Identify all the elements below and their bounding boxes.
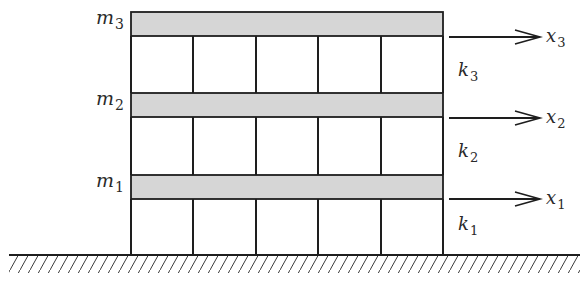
displacement-label-floor-3: x3: [546, 25, 565, 50]
slab-floor-3: [131, 12, 443, 36]
building-frame: [131, 12, 443, 255]
stiffness-label-floor-2: k2: [458, 140, 478, 165]
stiffness-label-floor-1: k1: [458, 213, 478, 238]
displacement-label-floor-2: x2: [546, 106, 565, 131]
stiffness-label-floor-3: k3: [458, 59, 478, 84]
shear-building-diagram: m3x3k3m2x2k2m1x1k1: [0, 0, 587, 285]
annotations: m3x3k3m2x2k2m1x1k1: [96, 6, 565, 238]
slab-floor-2: [131, 93, 443, 117]
ground-hatching: [9, 256, 580, 273]
mass-label-floor-3: m3: [96, 6, 124, 32]
mass-label-floor-2: m2: [96, 87, 124, 113]
ground: [9, 255, 580, 273]
slab-floor-1: [131, 175, 443, 199]
displacement-label-floor-1: x1: [546, 187, 565, 212]
mass-label-floor-1: m1: [96, 169, 124, 195]
